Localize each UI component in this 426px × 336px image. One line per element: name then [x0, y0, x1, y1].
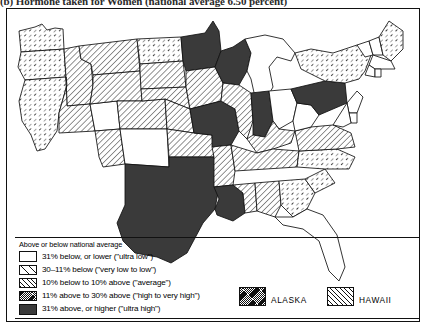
state-RI[interactable]	[375, 69, 381, 77]
legend-row-verylow[interactable]: 30–11% below ("very low to low")	[19, 263, 269, 276]
legend-title: Above or below national average	[19, 240, 122, 249]
inset-label-alaska: ALASKA	[271, 295, 307, 306]
inset-key-alaska[interactable]: ALASKA	[239, 287, 307, 306]
state-CO[interactable]	[117, 99, 167, 129]
legend-swatch-ultrahigh	[19, 304, 37, 315]
state-MN[interactable]	[181, 21, 221, 71]
map-legend: Above or below national average 31% belo…	[15, 237, 419, 319]
state-NY[interactable]	[295, 45, 371, 83]
legend-divider-top	[15, 237, 419, 238]
state-ME[interactable]	[379, 21, 403, 61]
map-frame: Above or below national average 31% belo…	[6, 8, 420, 322]
legend-row-ultralow[interactable]: 31% below, or lower ("ultra low")	[19, 250, 269, 263]
state-OR[interactable]	[18, 49, 66, 80]
inset-key-hawaii[interactable]: HAWAII	[327, 287, 392, 306]
state-AL[interactable]	[255, 181, 281, 217]
legend-label-high: 11% above to 30% above ("high to very hi…	[42, 292, 200, 300]
inset-swatch-alaska	[239, 287, 266, 306]
legend-label-ultrahigh: 31% above, or higher ("ultra high")	[42, 305, 160, 313]
legend-row-list: 31% below, or lower ("ultra low") 30–11%…	[19, 250, 269, 316]
state-NJ[interactable]	[347, 91, 363, 113]
legend-label-average: 10% below to 10% above ("average")	[42, 279, 171, 287]
legend-swatch-high	[19, 291, 37, 302]
state-UT[interactable]	[90, 101, 120, 131]
inset-swatch-hawaii	[327, 287, 354, 306]
legend-row-high[interactable]: 11% above to 30% above ("high to very hi…	[19, 290, 269, 303]
legend-label-ultralow: 31% below, or lower ("ultra low")	[42, 253, 153, 261]
inset-label-hawaii: HAWAII	[359, 295, 392, 306]
legend-row-ultrahigh[interactable]: 31% above, or higher ("ultra high")	[19, 303, 269, 316]
legend-swatch-ultralow	[19, 251, 37, 262]
legend-swatch-average	[19, 278, 37, 289]
state-SD[interactable]	[140, 61, 186, 89]
state-WA[interactable]	[19, 24, 64, 52]
state-NC[interactable]	[297, 149, 355, 169]
state-WY[interactable]	[90, 71, 142, 104]
state-ND[interactable]	[137, 37, 183, 64]
legend-divider-bottom	[15, 318, 419, 319]
legend-row-average[interactable]: 10% below to 10% above ("average")	[19, 276, 269, 289]
legend-swatch-verylow	[19, 265, 37, 276]
state-NM[interactable]	[120, 129, 169, 167]
legend-label-verylow: 30–11% below ("very low to low")	[42, 266, 156, 274]
figure-caption: (b) Hormone taken for Women (national av…	[0, 0, 426, 7]
